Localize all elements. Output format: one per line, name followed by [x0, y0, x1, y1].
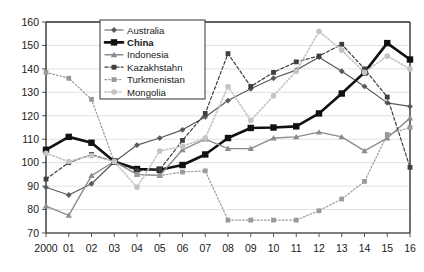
legend-item-label: Kazakhstahn: [127, 62, 182, 73]
data-point-marker: [384, 53, 390, 59]
data-point-marker: [385, 132, 390, 137]
data-point-marker: [179, 162, 185, 168]
x-tick-label: 12: [313, 242, 325, 254]
data-point-marker: [317, 208, 322, 213]
data-point-marker: [111, 89, 117, 95]
x-tick-label: 16: [404, 242, 416, 254]
data-point-marker: [408, 165, 413, 170]
data-point-marker: [316, 110, 322, 116]
data-point-marker: [180, 143, 186, 149]
data-point-marker: [408, 125, 413, 130]
x-axis-tick-marks: [46, 233, 410, 237]
data-point-marker: [111, 39, 117, 45]
data-point-marker: [157, 167, 162, 172]
data-point-marker: [112, 65, 117, 70]
y-tick-label: 90: [27, 180, 39, 192]
data-point-marker: [248, 118, 254, 124]
y-axis-tick-labels: 708090100110120130140150160: [21, 16, 46, 239]
x-tick-label: 06: [177, 242, 189, 254]
x-tick-label: 07: [199, 242, 211, 254]
data-point-marker: [407, 104, 413, 110]
data-point-marker: [339, 42, 344, 47]
data-point-marker: [43, 184, 49, 190]
y-tick-label: 160: [21, 16, 39, 28]
y-tick-label: 130: [21, 86, 39, 98]
data-point-marker: [111, 159, 117, 165]
x-axis-tick-labels: 200001020304050607080910111213141516: [34, 242, 416, 254]
data-point-marker: [226, 218, 231, 223]
legend-item-label: Mongolia: [127, 87, 167, 98]
data-point-marker: [407, 66, 413, 72]
data-point-marker: [225, 84, 231, 90]
data-point-marker: [89, 153, 95, 159]
chart-canvas: 708090100110120130140150160 200001020304…: [0, 0, 424, 272]
data-point-marker: [293, 123, 299, 129]
chart-legend: AustraliaChinaIndonesiaKazakhstahnTurkme…: [100, 20, 205, 99]
y-tick-label: 110: [22, 133, 39, 145]
y-tick-label: 120: [21, 110, 39, 122]
data-point-marker: [248, 84, 253, 89]
data-point-marker: [66, 192, 72, 198]
x-tick-label: 2000: [34, 242, 58, 254]
data-point-marker: [384, 40, 390, 46]
x-tick-label: 09: [245, 242, 257, 254]
y-tick-label: 70: [27, 227, 39, 239]
data-point-marker: [134, 184, 140, 190]
data-point-marker: [339, 90, 345, 96]
data-point-marker: [180, 127, 186, 133]
data-point-marker: [112, 77, 117, 82]
data-point-marker: [248, 218, 253, 223]
series-indonesia: [43, 115, 413, 218]
x-tick-label: 02: [86, 242, 98, 254]
series-line: [46, 118, 410, 215]
data-point-marker: [44, 70, 49, 75]
data-point-marker: [225, 135, 231, 141]
legend-item-label: Turkmenistan: [127, 74, 185, 85]
data-point-marker: [180, 170, 185, 175]
x-tick-label: 10: [268, 242, 280, 254]
data-point-marker: [89, 97, 94, 102]
data-point-marker: [339, 47, 345, 53]
data-point-marker: [339, 197, 344, 202]
data-point-marker: [317, 54, 322, 59]
data-point-marker: [88, 140, 94, 146]
data-point-marker: [202, 135, 208, 141]
x-tick-label: 04: [131, 242, 143, 254]
x-tick-label: 13: [336, 242, 348, 254]
data-point-marker: [294, 218, 299, 223]
x-tick-label: 01: [63, 242, 75, 254]
data-point-marker: [66, 76, 71, 81]
series-china: [43, 40, 413, 173]
data-point-marker: [43, 150, 49, 156]
data-point-marker: [44, 177, 49, 182]
data-series-group: [43, 29, 413, 223]
legend-item-label: China: [127, 37, 154, 48]
data-point-marker: [407, 56, 413, 62]
data-point-marker: [66, 134, 72, 140]
data-point-marker: [293, 68, 299, 74]
legend-item-label: Australia: [127, 25, 165, 36]
data-point-marker: [157, 173, 162, 178]
y-tick-label: 80: [27, 203, 39, 215]
data-point-marker: [271, 70, 276, 75]
data-point-marker: [385, 95, 390, 100]
data-point-marker: [271, 75, 277, 81]
x-tick-label: 14: [359, 242, 371, 254]
data-point-marker: [180, 138, 185, 143]
data-point-marker: [271, 93, 277, 99]
data-point-marker: [66, 159, 72, 165]
x-tick-label: 08: [222, 242, 234, 254]
series-australia: [43, 54, 413, 198]
x-tick-label: 03: [108, 242, 120, 254]
data-point-marker: [271, 218, 276, 223]
data-point-marker: [135, 172, 140, 177]
data-point-marker: [43, 203, 49, 208]
data-point-marker: [362, 70, 368, 76]
data-point-marker: [202, 151, 208, 157]
data-point-marker: [203, 168, 208, 173]
data-point-marker: [203, 111, 208, 116]
y-tick-label: 100: [21, 156, 39, 168]
data-point-marker: [316, 129, 322, 134]
data-point-marker: [294, 59, 299, 64]
legend-item-label: Indonesia: [127, 49, 169, 60]
